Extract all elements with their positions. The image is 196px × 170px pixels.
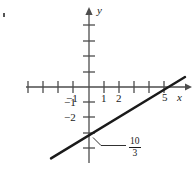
fraction-denominator: 3 (129, 149, 141, 159)
y-tick-label--2: −2 (64, 112, 76, 123)
coordinate-graph-figure: y x −1 1 2 5 −1 −2 10 3 (0, 0, 196, 170)
x-axis-label: x (177, 92, 182, 103)
x-axis-arrowhead (185, 83, 192, 90)
y-axis-label: y (97, 5, 102, 16)
y-intercept-fraction-annotation: 10 3 (129, 137, 141, 159)
y-axis-arrowhead (85, 7, 92, 15)
graph-canvas (0, 0, 196, 170)
x-tick-label-2: 2 (116, 93, 122, 104)
annotation-leader-line (93, 138, 126, 146)
x-tick-label-1: 1 (101, 93, 107, 104)
x-tick-label-5: 5 (162, 92, 168, 103)
fraction-numerator: 10 (129, 137, 141, 147)
y-tick-label--1: −1 (64, 97, 76, 108)
